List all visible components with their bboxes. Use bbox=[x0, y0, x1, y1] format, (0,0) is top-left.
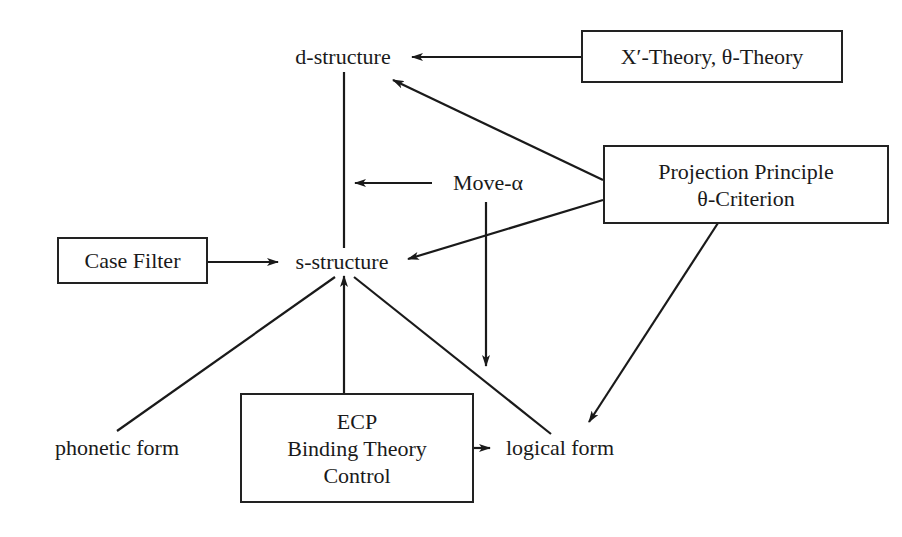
xbar-theta-theory-text: X′-Theory, θ-Theory bbox=[621, 43, 804, 70]
xbar-theta-theory-box: X′-Theory, θ-Theory bbox=[581, 30, 843, 83]
edge-projection-to-logicalform bbox=[589, 223, 718, 422]
move-alpha-label: Move-α bbox=[453, 170, 523, 196]
projection-principle-text: Projection Principle bbox=[658, 158, 833, 185]
ecp-text: ECP bbox=[337, 408, 377, 435]
phonetic-form-label: phonetic form bbox=[55, 435, 179, 461]
case-filter-box: Case Filter bbox=[57, 237, 208, 284]
binding-theory-text: Binding Theory bbox=[287, 435, 427, 462]
theta-criterion-text: θ-Criterion bbox=[697, 185, 794, 212]
projection-principle-box: Projection Principle θ-Criterion bbox=[603, 145, 889, 224]
ecp-binding-control-box: ECP Binding Theory Control bbox=[240, 393, 474, 503]
edge-projection-to-dstructure bbox=[393, 80, 603, 180]
logical-form-label: logical form bbox=[506, 435, 614, 461]
edge-projection-to-sstructure bbox=[408, 200, 603, 259]
control-text: Control bbox=[323, 462, 390, 489]
case-filter-text: Case Filter bbox=[85, 247, 181, 274]
d-structure-label: d-structure bbox=[295, 44, 390, 70]
s-structure-label: s-structure bbox=[296, 249, 389, 275]
